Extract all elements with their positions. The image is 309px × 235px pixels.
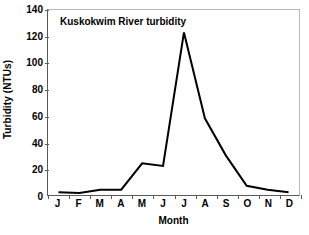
y-axis-tick-label: 120 bbox=[26, 30, 43, 41]
y-axis-tick-label: 0 bbox=[37, 191, 43, 202]
x-axis-tick-label: J bbox=[160, 198, 166, 209]
y-axis-tick-label: 40 bbox=[32, 137, 43, 148]
x-axis-tick-label: S bbox=[223, 198, 230, 209]
x-axis-tick-label: A bbox=[117, 198, 124, 209]
plot-area: Kuskokwim River turbidity bbox=[47, 9, 300, 196]
x-axis-tick-label: M bbox=[96, 198, 104, 209]
x-axis-tick-label: A bbox=[202, 198, 209, 209]
chart-title: Kuskokwim River turbidity bbox=[60, 16, 186, 27]
y-axis-title: Turbidity (NTUs) bbox=[0, 0, 16, 198]
x-axis-tick-label: D bbox=[286, 198, 293, 209]
y-axis-tick-label: 140 bbox=[26, 4, 43, 15]
y-axis-tick-label: 80 bbox=[32, 84, 43, 95]
y-axis-tick-label: 20 bbox=[32, 164, 43, 175]
x-axis-tick-label: J bbox=[55, 198, 61, 209]
x-axis-title: Month bbox=[47, 215, 300, 226]
y-axis-title-label: Turbidity (NTUs) bbox=[3, 59, 14, 138]
x-axis-tick-label: F bbox=[76, 198, 82, 209]
x-axis-tick-label: M bbox=[138, 198, 146, 209]
turbidity-line-path bbox=[58, 32, 288, 193]
x-axis-tick-label: N bbox=[265, 198, 272, 209]
y-axis-tick-label: 100 bbox=[26, 57, 43, 68]
y-axis-tick-label: 60 bbox=[32, 110, 43, 121]
turbidity-line-series bbox=[48, 10, 299, 195]
x-axis-tick-label: O bbox=[243, 198, 251, 209]
x-axis-tick-mark bbox=[301, 195, 302, 199]
chart-container: Turbidity (NTUs) 020406080100120140 Kusk… bbox=[0, 0, 309, 235]
y-axis-tick-labels: 020406080100120140 bbox=[16, 0, 47, 198]
x-axis-tick-label: J bbox=[181, 198, 187, 209]
x-axis-tick-labels: JFMAMJJASOND bbox=[47, 198, 300, 214]
